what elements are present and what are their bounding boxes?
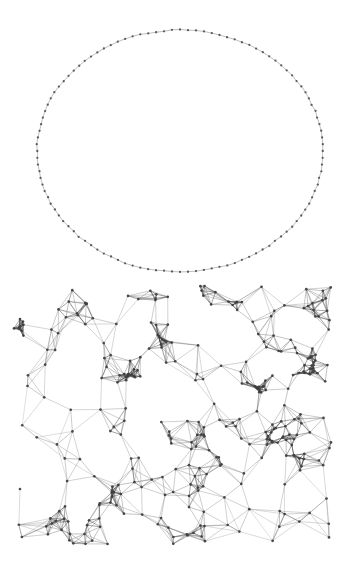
graph-panels: [0, 0, 353, 570]
graph-canvas: [0, 0, 353, 570]
graph-figure: [0, 0, 353, 570]
mesh-edge-layer: [14, 286, 331, 544]
ring-node-layer: [36, 28, 324, 273]
